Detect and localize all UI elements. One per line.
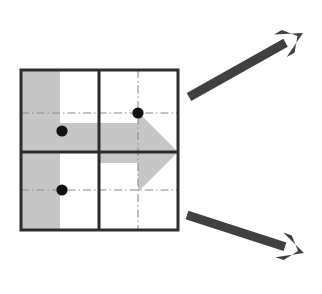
- left-gray-band: [21, 70, 60, 230]
- figure-canvas: [0, 0, 322, 294]
- marker-lower-left: [56, 184, 67, 195]
- figure-diagram: [0, 0, 322, 294]
- marker-upper-right: [132, 107, 143, 118]
- marker-upper-left: [56, 125, 67, 136]
